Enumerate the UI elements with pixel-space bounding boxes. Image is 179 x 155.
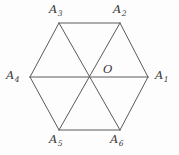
vertex-label-A6: A6 [110,134,124,146]
vertex-letter-A4: A [6,68,15,82]
center-point-label-O: O [103,64,112,76]
vertex-letter-A6: A [110,132,119,146]
vertex-label-A2: A2 [113,4,127,16]
vertex-subscript-A2: 2 [122,9,127,18]
vertex-label-A1: A1 [155,70,169,82]
vertex-letter-A3: A [49,2,58,16]
vertex-subscript-A4: 4 [15,75,20,84]
vertex-letter-A5: A [49,132,58,146]
edge-A3-A4 [30,23,59,77]
hexagon-figure: A1A2A3A4A5A6 O [0,0,179,155]
edge-A1-A2 [120,23,148,77]
vertex-label-A3: A3 [49,4,63,16]
vertex-label-A4: A4 [6,70,20,82]
vertex-letter-A2: A [113,2,122,16]
hexagon-diagonals [30,23,148,130]
hexagon-drawing [0,0,179,155]
vertex-subscript-A6: 6 [119,139,124,148]
vertex-subscript-A1: 1 [164,75,169,84]
vertex-subscript-A3: 3 [58,9,63,18]
vertex-label-A5: A5 [49,134,63,146]
edge-A6-A1 [120,77,148,130]
vertex-subscript-A5: 5 [58,139,63,148]
edge-A4-A5 [30,77,59,130]
vertex-letter-A1: A [155,68,164,82]
